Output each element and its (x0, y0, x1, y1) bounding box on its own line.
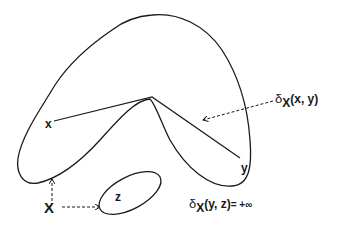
delta-yz-label: δX(y, z)= +∞ (189, 197, 252, 210)
small-region-outline (92, 163, 167, 223)
main-region-outline (18, 15, 251, 187)
point-z-label: z (115, 191, 121, 203)
delta-subscript: X (196, 201, 204, 215)
point-y-label: y (241, 162, 248, 174)
delta-xy-label: δX(x, y) (275, 92, 318, 105)
delta-args: (x, y) (290, 92, 318, 106)
point-x-label: x (45, 118, 52, 130)
set-X-label: X (44, 200, 54, 215)
path-x-to-y (54, 97, 240, 158)
delta-equals-infinity: = +∞ (231, 199, 253, 210)
delta-args: (y, z) (204, 197, 230, 211)
diagram-canvas (0, 0, 342, 232)
delta-subscript: X (282, 96, 290, 110)
delta-xy-pointer (203, 101, 273, 120)
